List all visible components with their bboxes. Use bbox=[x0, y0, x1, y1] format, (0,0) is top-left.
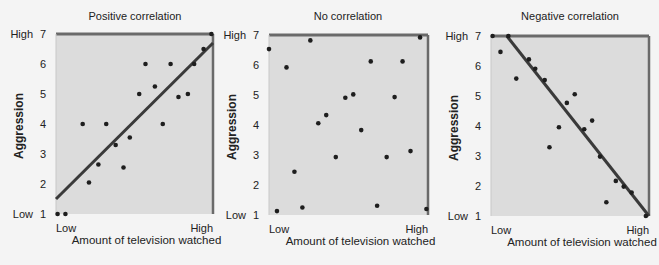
data-point bbox=[629, 190, 634, 195]
y-tick-label: 3 bbox=[475, 150, 481, 162]
y-tick-label: 2 bbox=[475, 180, 481, 192]
x-high-label: High bbox=[626, 224, 649, 236]
data-point bbox=[498, 50, 503, 55]
y-extreme-label: Low bbox=[448, 210, 468, 222]
y-tick-label: 5 bbox=[475, 90, 481, 102]
chart-title: Negative correlation bbox=[521, 10, 619, 22]
y-extreme-label: High bbox=[445, 30, 468, 42]
y-tick-label: 7 bbox=[475, 30, 481, 42]
plot-area bbox=[491, 36, 649, 216]
x-axis-label: Amount of television watched bbox=[507, 236, 657, 248]
y-tick-label: 1 bbox=[475, 210, 481, 222]
data-point bbox=[604, 200, 609, 205]
data-point bbox=[644, 214, 649, 219]
data-point bbox=[514, 76, 519, 81]
data-point bbox=[590, 118, 595, 123]
y-tick-label: 6 bbox=[475, 60, 481, 72]
y-tick-label: 4 bbox=[475, 120, 481, 132]
data-point bbox=[533, 66, 538, 71]
data-point bbox=[598, 154, 603, 159]
data-point bbox=[527, 57, 532, 62]
data-point bbox=[621, 184, 626, 189]
data-point bbox=[557, 125, 562, 130]
x-low-label: Low bbox=[491, 224, 511, 236]
data-point bbox=[506, 34, 511, 39]
scatter-chart-negative-correlation: Negative correlation1Low234567HighAggres… bbox=[0, 0, 659, 265]
data-point bbox=[490, 34, 495, 39]
data-point bbox=[542, 78, 547, 83]
data-point bbox=[614, 179, 619, 184]
y-axis-label: Aggression bbox=[447, 95, 461, 161]
data-point bbox=[582, 127, 587, 132]
data-point bbox=[547, 145, 552, 150]
data-point bbox=[572, 92, 577, 97]
data-point bbox=[565, 101, 570, 106]
